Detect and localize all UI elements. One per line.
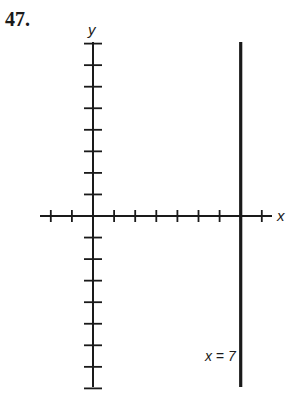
coordinate-graph: x y x = 7 [0, 0, 306, 420]
x-axis-label: x [276, 207, 285, 224]
y-axis-label: y [87, 21, 97, 38]
line-equation-label: x = 7 [204, 348, 237, 364]
